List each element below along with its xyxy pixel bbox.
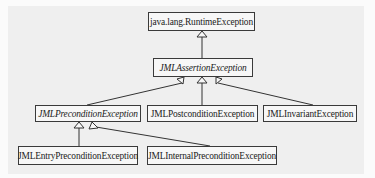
class-jml-precondition-exception: JMLPreconditionException — [35, 105, 141, 122]
generalization-arrowhead-icon — [89, 122, 98, 129]
generalization-arrowhead-icon — [197, 77, 207, 83]
edge-invariant-assertion — [218, 83, 313, 105]
class-runtime-exception: java.lang.RuntimeException — [148, 12, 255, 31]
edge-internal-precondition — [96, 127, 210, 146]
class-jml-postcondition-exception: JMLPostconditionException — [147, 105, 258, 122]
generalization-arrowhead-icon — [74, 122, 84, 128]
generalization-arrowhead-icon — [197, 31, 207, 37]
class-jml-internal-precondition-exception: JMLInternalPreconditionException — [147, 146, 277, 165]
class-jml-entry-precondition-exception: JMLEntryPreconditionException — [18, 146, 138, 165]
edge-precondition-assertion — [87, 83, 182, 105]
class-jml-invariant-exception: JMLInvariantException — [263, 105, 357, 122]
class-jml-assertion-exception: JMLAssertionException — [153, 58, 253, 77]
